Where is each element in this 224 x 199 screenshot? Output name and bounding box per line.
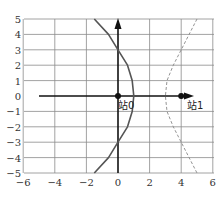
y-tick: 3: [15, 45, 21, 56]
x-tick: 4: [178, 177, 184, 188]
x-tick: 0: [115, 177, 121, 188]
y-axis-arrow-icon: [115, 18, 122, 29]
x-tick: −2: [79, 177, 94, 188]
x-tick: 6: [210, 177, 216, 188]
y-tick: −4: [6, 153, 21, 164]
y-tick: 1: [15, 76, 21, 87]
y-tick: 0: [15, 91, 21, 102]
y-tick: −3: [6, 137, 21, 148]
station1-label: 站1: [187, 99, 203, 111]
y-tick: 5: [15, 14, 21, 25]
station1-point: [178, 93, 184, 99]
y-tick: −2: [6, 122, 21, 133]
hyperbola-chart: 站0 站1 5 4 3 2 1 0 −1 −2 −3 −4 −5 −6 −4 −…: [0, 0, 224, 199]
station0-point: [115, 93, 121, 99]
y-tick: −1: [6, 106, 21, 117]
y-tick: 4: [15, 29, 21, 40]
x-tick: 2: [146, 177, 152, 188]
station0-label: 站0: [118, 99, 134, 111]
x-axis-arrow-icon: [184, 93, 194, 100]
x-tick-labels: −6 −4 −2 0 2 4 6: [16, 177, 216, 188]
x-tick: −4: [47, 177, 62, 188]
x-tick: −6: [16, 177, 31, 188]
y-tick: 2: [15, 60, 21, 71]
y-tick-labels: 5 4 3 2 1 0 −1 −2 −3 −4 −5: [6, 14, 21, 179]
